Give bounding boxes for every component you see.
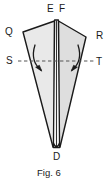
vertex-label-E: E bbox=[47, 4, 54, 14]
figure-container: E F Q R S T D Fig. 6 bbox=[0, 0, 111, 184]
vertex-label-D: D bbox=[53, 152, 60, 162]
vertex-label-Q: Q bbox=[5, 27, 13, 37]
figure-caption: Fig. 6 bbox=[37, 168, 61, 178]
right-wing-panel bbox=[59, 21, 87, 147]
vertex-label-S: S bbox=[6, 56, 13, 66]
vertex-label-F: F bbox=[59, 4, 65, 14]
vertex-label-T: T bbox=[96, 57, 102, 67]
left-wing-panel bbox=[23, 21, 55, 147]
vertex-label-R: R bbox=[96, 31, 103, 41]
